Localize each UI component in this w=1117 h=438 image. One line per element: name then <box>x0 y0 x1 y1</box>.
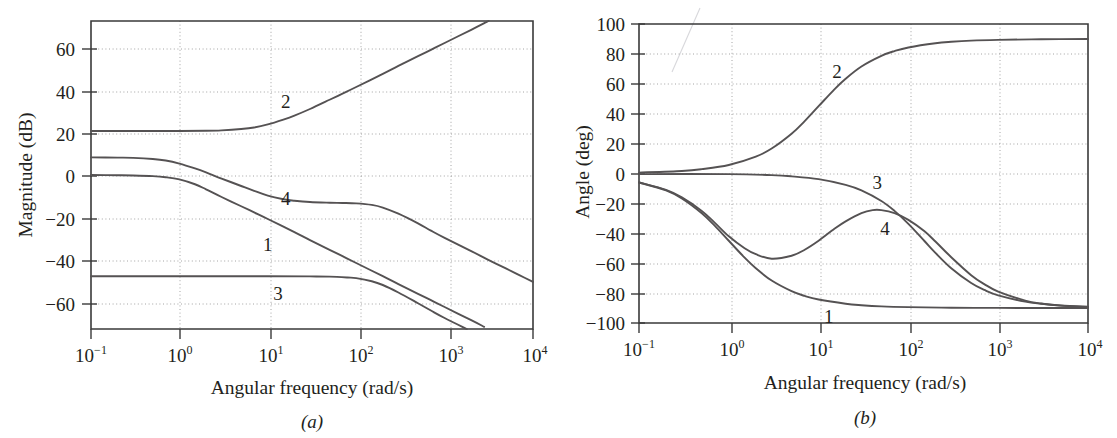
curve-label-1: 1 <box>824 306 834 327</box>
panel-b-caption: (b) <box>854 407 876 429</box>
scan-artifact <box>672 8 700 72</box>
panel-b-ytick-7: −40 <box>595 224 625 245</box>
panel-a-xtick-5: 104 <box>523 343 548 366</box>
curve-label-2: 2 <box>281 91 291 112</box>
panel-b-ytick-10: −100 <box>586 313 625 334</box>
panel-b-x-ticklabels: 10−1 100 101 102 103 104 <box>623 337 1102 360</box>
curve-label-2: 2 <box>832 61 842 82</box>
panel-a-gridlines <box>91 21 533 329</box>
panel-a-xtick-3: 102 <box>349 343 374 366</box>
panel-a-xtick-2: 101 <box>259 343 284 366</box>
panel-b-xtick-3: 102 <box>899 337 924 360</box>
panel-b-ytick-9: −80 <box>595 284 625 305</box>
curve-label-3: 3 <box>273 283 283 304</box>
panel-b-y-axis-title: Angle (deg) <box>572 125 594 219</box>
curve-2 <box>91 21 489 131</box>
curve-2 <box>639 39 1088 173</box>
panel-a-ytick-5: −40 <box>45 251 75 272</box>
panel-b-xtick-2: 101 <box>809 337 834 360</box>
panel-a-curves <box>91 21 533 329</box>
panel-b-curves <box>639 39 1088 308</box>
panel-b-ytick-4: 20 <box>606 134 625 155</box>
panel-a-xtick-0: 10−1 <box>75 343 107 366</box>
panel-a-x-ticklabels: 10−1 100 101 102 103 104 <box>75 343 547 366</box>
panel-b-ytick-5: 0 <box>616 164 626 185</box>
panel-a-xtick-4: 103 <box>439 343 464 366</box>
panel-b-ytick-0: 100 <box>597 14 626 35</box>
panel-a-x-ticks <box>91 329 533 339</box>
panel-a-ytick-2: 20 <box>56 124 75 145</box>
panel-b-xtick-1: 100 <box>720 337 745 360</box>
figure-svg: 60 40 20 0 −20 −40 −60 10−1 100 101 102 … <box>0 0 1117 438</box>
panel-b-curve-labels: 1234 <box>824 61 890 327</box>
panel-a-frame <box>91 21 533 329</box>
panel-b-xtick-5: 104 <box>1078 337 1103 360</box>
panel-a-ytick-4: −20 <box>45 209 75 230</box>
panel-a: 60 40 20 0 −20 −40 −60 10−1 100 101 102 … <box>15 21 548 433</box>
panel-a-y-ticks <box>82 49 97 304</box>
panel-a-x-axis-title: Angular frequency (rad/s) <box>211 377 414 399</box>
panel-a-caption: (a) <box>301 411 323 433</box>
panel-b-xtick-4: 103 <box>988 337 1013 360</box>
panel-a-ytick-0: 60 <box>56 39 75 60</box>
panel-a-xtick-1: 100 <box>168 343 193 366</box>
curve-label-4: 4 <box>880 218 890 239</box>
panel-b-x-ticks <box>639 323 1088 333</box>
curve-3 <box>639 174 1088 307</box>
panel-b-ytick-6: −20 <box>595 194 625 215</box>
panel-b-ytick-3: 40 <box>606 104 625 125</box>
panel-b: 100 80 60 40 20 0 −20 −40 −60 −80 −100 1… <box>572 8 1103 429</box>
curve-label-3: 3 <box>873 172 883 193</box>
panel-b-ytick-1: 80 <box>606 44 625 65</box>
bode-plot-figure: 60 40 20 0 −20 −40 −60 10−1 100 101 102 … <box>0 0 1117 438</box>
panel-a-ytick-6: −60 <box>45 294 75 315</box>
panel-a-ytick-3: 0 <box>66 166 76 187</box>
panel-a-y-axis-title: Magnitude (dB) <box>15 112 37 237</box>
curve-label-1: 1 <box>263 234 273 255</box>
panel-b-ytick-8: −60 <box>595 254 625 275</box>
curve-1 <box>639 182 1088 308</box>
curve-4 <box>639 182 1088 307</box>
curve-label-4: 4 <box>281 188 291 209</box>
panel-b-xtick-0: 10−1 <box>623 337 655 360</box>
panel-a-ytick-1: 40 <box>56 82 75 103</box>
panel-b-ytick-2: 60 <box>606 74 625 95</box>
panel-b-x-axis-title: Angular frequency (rad/s) <box>764 372 967 394</box>
panel-a-y-ticklabels: 60 40 20 0 −20 −40 −60 <box>45 39 75 315</box>
